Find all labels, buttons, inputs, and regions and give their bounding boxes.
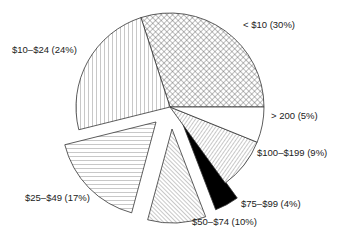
label-100-199: $100–$199 (9%) (257, 148, 327, 158)
label-under-10: < $10 (30%) (243, 20, 295, 30)
label-25-49: $25–$49 (17%) (25, 193, 90, 203)
label-over-200: > 200 (5%) (271, 111, 318, 121)
pie-chart (0, 0, 344, 251)
label-50-74: $50–$74 (10%) (192, 217, 257, 227)
label-75-99: $75–$99 (4%) (241, 199, 301, 209)
label-10-24: $10–$24 (24%) (12, 45, 77, 55)
